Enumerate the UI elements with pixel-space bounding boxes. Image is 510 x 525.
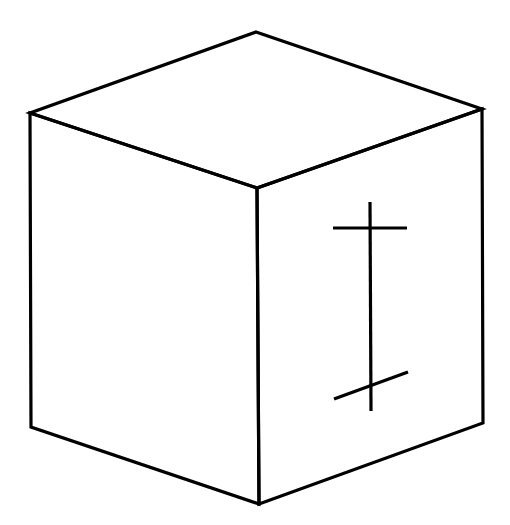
cube bbox=[30, 32, 483, 504]
vertical-line bbox=[370, 202, 371, 411]
cube-diagram bbox=[0, 0, 510, 525]
cube-left-face bbox=[30, 113, 259, 504]
cube-top-face bbox=[30, 32, 482, 188]
right-face-marking bbox=[333, 202, 408, 411]
